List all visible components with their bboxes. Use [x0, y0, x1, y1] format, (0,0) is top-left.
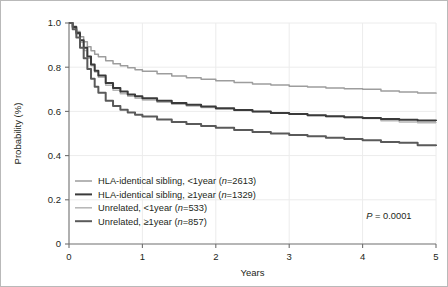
- y-tick-label: 0.6: [48, 106, 61, 117]
- legend-label: HLA-identical sibling, <1year (n=2613): [98, 176, 256, 186]
- x-axis-tick-labels: 012345: [66, 251, 438, 262]
- legend-label: Unrelated, ≥1year (n=857): [98, 217, 207, 227]
- y-axis-tick-labels: 00.20.40.60.81.0: [48, 17, 61, 249]
- chart-annotations: P = 0.0001: [366, 211, 411, 221]
- chart-legend: HLA-identical sibling, <1year (n=2613)HL…: [75, 176, 256, 226]
- x-tick-label: 4: [360, 251, 365, 262]
- legend-label: HLA-identical sibling, ≥1year (n=1329): [98, 190, 256, 200]
- x-tick-label: 1: [140, 251, 145, 262]
- y-tick-label: 0.2: [48, 194, 61, 205]
- x-tick-label: 3: [287, 251, 292, 262]
- series-line: [69, 23, 436, 123]
- figure-container: 00.20.40.60.81.0 012345 HLA-identical si…: [0, 0, 448, 287]
- x-tick-label: 5: [433, 251, 438, 262]
- x-tick-label: 0: [66, 251, 71, 262]
- kaplan-meier-chart: 00.20.40.60.81.0 012345 HLA-identical si…: [1, 1, 448, 287]
- y-tick-label: 0.4: [48, 150, 61, 161]
- y-tick-label: 1.0: [48, 17, 61, 28]
- p-value-annotation: P = 0.0001: [366, 211, 411, 221]
- series-line: [69, 23, 436, 94]
- x-tick-label: 2: [213, 251, 218, 262]
- x-axis-title: Years: [241, 267, 265, 278]
- y-tick-label: 0.8: [48, 62, 61, 73]
- y-axis-title: Probability (%): [12, 103, 23, 165]
- series-line: [69, 23, 436, 121]
- series-curves: [69, 23, 436, 146]
- legend-label: Unrelated, <1year (n=533): [98, 203, 207, 213]
- y-tick-label: 0: [56, 238, 61, 249]
